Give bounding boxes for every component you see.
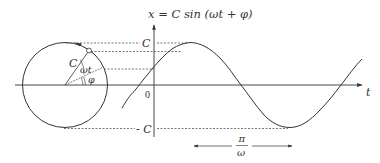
phasor-sine-diagram: t x = C sin (ωt + φ) 0 C ωt φ C - C π ω [0,0,380,163]
amplitude-bottom-label: - C [136,123,152,136]
t-axis-label: t [366,86,371,99]
phi-arc [84,77,86,85]
amplitude-top-label: C [142,37,151,50]
equation-label: x = C sin (ωt + φ) [148,7,253,21]
half-period-numerator: π [238,133,246,144]
radius-label: C [69,57,78,70]
phi-arc-inner [81,78,83,85]
phi-label: φ [88,74,95,85]
half-period-denominator: ω [237,147,245,158]
phasor-point [87,48,92,53]
origin-label: 0 [145,89,150,100]
